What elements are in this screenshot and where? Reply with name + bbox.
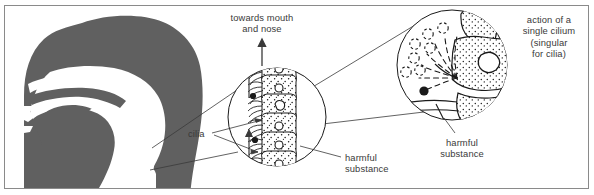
label-harmful-substance-epithelium: harmful substance (345, 152, 405, 175)
label-towards-mouth-and-nose: towards mouth and nose (206, 12, 318, 35)
arrow-up-icon (258, 39, 265, 66)
label-cilia: cilia (188, 128, 205, 139)
head-silhouette (24, 16, 203, 195)
cilia-diagram-figure: towards mouth and nose action of a singl… (0, 0, 594, 195)
epithelium-circle (228, 36, 326, 180)
harmful-particle (419, 86, 428, 95)
label-harmful-substance-cilium: harmful substance (431, 137, 493, 160)
epithelial-cell-column (262, 36, 297, 177)
label-action-of-single-cilium: action of a single cilium (singular for … (508, 14, 590, 59)
cell-nucleus (478, 52, 500, 72)
